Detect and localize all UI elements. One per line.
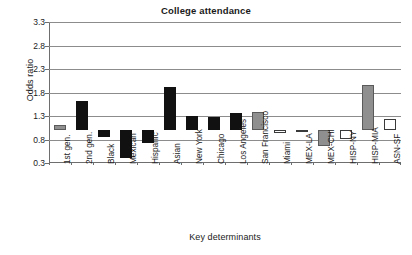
x-tick-label-hispanic: Hispanic xyxy=(151,132,160,164)
x-tick-label-asian: Asian xyxy=(173,143,182,164)
bar-asn-sf xyxy=(384,119,396,130)
gridline-1.8 xyxy=(49,93,401,94)
gridline-2.3 xyxy=(49,69,401,70)
x-tick-label-san-francisco: San Francisco xyxy=(261,111,270,164)
x-tick-label-mex-la: MEX-LA xyxy=(305,133,314,164)
x-axis-tick-labels: 1st gen.2nd gen.BlackMexicanHispanicAsia… xyxy=(49,164,401,226)
y-tick-mark xyxy=(45,93,49,94)
bar-2nd-gen xyxy=(76,101,88,130)
x-tick-label-black: Black xyxy=(107,144,116,164)
x-tick-label-2nd-gen: 2nd gen. xyxy=(85,132,94,164)
x-tick-label-los-angeles: Los Angeles xyxy=(239,119,248,164)
x-tick-label-new-york: New York xyxy=(195,129,204,164)
gridline-1.3 xyxy=(49,116,401,117)
chart-title: College attendance xyxy=(0,5,412,16)
x-tick-label-mexican: Mexican xyxy=(129,133,138,164)
bar-miami xyxy=(274,130,286,133)
y-tick-label-0.8: 0.8 xyxy=(23,135,45,145)
gridline-3.3 xyxy=(49,22,401,23)
x-tick-label-1st-gen: 1st gen. xyxy=(63,134,72,164)
x-tick-label-mex-chi: MEX-CHI xyxy=(327,129,336,164)
bar-black xyxy=(98,130,110,137)
bar-hisp-mia xyxy=(362,85,374,131)
y-tick-label-2.8: 2.8 xyxy=(23,41,45,51)
bar-new-york xyxy=(186,116,198,131)
y-tick-mark xyxy=(45,116,49,117)
x-axis-label: Key determinants xyxy=(49,232,401,242)
y-tick-label-0.3: 0.3 xyxy=(23,158,45,168)
x-tick-label-asn-sf: ASN-SF xyxy=(393,134,402,164)
y-tick-label-2.3: 2.3 xyxy=(23,64,45,74)
bar-chicago xyxy=(208,117,220,130)
y-tick-mark xyxy=(45,46,49,47)
y-tick-mark xyxy=(45,140,49,141)
bar-1st-gen xyxy=(54,125,66,130)
y-tick-mark xyxy=(45,22,49,23)
x-tick-label-miami: Miami xyxy=(283,142,292,164)
y-tick-mark xyxy=(45,69,49,70)
x-tick-label-hisp-mia: HISP-MIA xyxy=(371,127,380,164)
y-tick-label-3.3: 3.3 xyxy=(23,17,45,27)
x-tick-label-hisp-ny: HISP-NY xyxy=(349,130,358,164)
chart-figure: College attendance Odds ratio 0.30.81.31… xyxy=(0,0,412,255)
y-tick-label-1.3: 1.3 xyxy=(23,111,45,121)
y-tick-label-1.8: 1.8 xyxy=(23,88,45,98)
x-tick-label-chicago: Chicago xyxy=(217,134,226,164)
bar-asian xyxy=(164,87,176,130)
y-axis-tick-labels: 0.30.81.31.82.32.83.3 xyxy=(21,22,45,163)
gridline-2.8 xyxy=(49,46,401,47)
